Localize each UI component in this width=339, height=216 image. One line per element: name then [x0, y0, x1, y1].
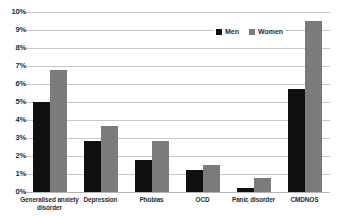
x-tick-label-line: disorder	[14, 204, 85, 212]
y-tick-label: 3%	[4, 134, 26, 142]
bar-women-phobias	[152, 141, 169, 192]
bar-men-generalised-anxiety-disorder	[33, 102, 50, 192]
bar-women-ocd	[203, 165, 220, 192]
bar-men-panic-disorder	[237, 188, 254, 192]
y-tick-label: 7%	[4, 62, 26, 70]
bar-men-phobias	[135, 160, 152, 192]
y-tick-label: 9%	[4, 26, 26, 34]
y-tick-label: 2%	[4, 152, 26, 160]
legend-item-men[interactable]: Men	[216, 28, 239, 36]
y-tick-label: 5%	[4, 98, 26, 106]
bar-women-depression	[101, 126, 118, 192]
bar-women-cmdnos	[305, 21, 322, 192]
legend-label: Men	[225, 28, 239, 36]
bar-men-depression	[84, 141, 101, 192]
y-tick-label: 10%	[4, 8, 26, 16]
y-tick-label: 8%	[4, 44, 26, 52]
legend-label: Women	[258, 28, 283, 36]
legend-swatch-icon	[216, 29, 222, 35]
bar-women-generalised-anxiety-disorder	[50, 70, 67, 192]
chart-legend: MenWomen	[214, 27, 285, 37]
y-tick-label: 0%	[4, 188, 26, 196]
bar-men-cmdnos	[288, 89, 305, 193]
y-tick-label: 6%	[4, 80, 26, 88]
bar-chart: 10%9%8%7%6%5%4%3%2%1%0% Generalised anxi…	[0, 0, 339, 216]
y-tick-label: 4%	[4, 116, 26, 124]
gridline-0pct	[24, 192, 330, 193]
bar-men-ocd	[186, 170, 203, 192]
y-tick-label: 1%	[4, 170, 26, 178]
x-tick-label-cmdnos: CMDNOS	[269, 196, 339, 204]
bars-layer	[24, 12, 330, 192]
legend-swatch-icon	[249, 29, 255, 35]
bar-women-panic-disorder	[254, 178, 271, 192]
legend-item-women[interactable]: Women	[249, 28, 283, 36]
x-tick-label-line: CMDNOS	[269, 196, 339, 204]
